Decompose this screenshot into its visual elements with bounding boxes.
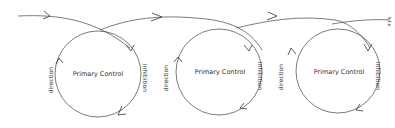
arrow-icon	[240, 103, 247, 109]
end-label: h.f.e.	[387, 16, 392, 27]
center-label-2: Primary Control	[195, 68, 246, 76]
control-loops-diagram: Primary Control Primary Control Primary …	[0, 0, 395, 128]
direction-label-2: direction	[162, 65, 169, 91]
connector-2-3	[236, 18, 370, 48]
direction-label-3: direction	[277, 64, 284, 90]
inhibition-label-2: inhibition	[257, 62, 264, 90]
exit-path	[332, 20, 390, 24]
center-label-3: Primary Control	[314, 68, 365, 76]
arrow-icon	[356, 104, 363, 111]
direction-label-1: direction	[47, 67, 54, 93]
arrow-icon	[43, 11, 50, 19]
inhibition-label-1: inhibition	[142, 64, 149, 92]
inhibition-label-3: inhibition	[375, 62, 382, 90]
arrow-icon	[267, 12, 277, 20]
arrow-icon	[244, 45, 252, 51]
entry-path	[18, 16, 130, 48]
center-label-1: Primary Control	[73, 70, 124, 78]
arrow-icon	[288, 48, 296, 55]
